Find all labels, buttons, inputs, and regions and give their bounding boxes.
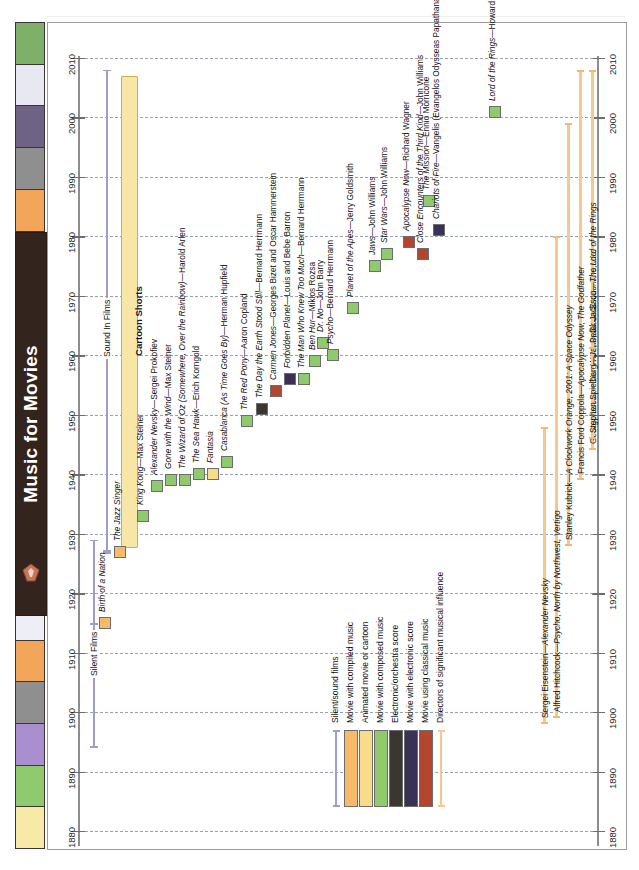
legend-swatch [359, 730, 373, 807]
film-marker[interactable] [151, 480, 163, 492]
year-label-left: 2010 [66, 54, 77, 75]
legend-label: Animated movie or cartoon [360, 621, 370, 723]
film-label: Apocalypse Now—Richard Wagner [402, 102, 411, 232]
infographic-page: Music for Movies 20102010200020001990199… [0, 0, 639, 870]
year-label-right: 1980 [607, 232, 618, 253]
film-marker[interactable] [270, 385, 282, 397]
film-marker[interactable] [298, 373, 310, 385]
film-marker[interactable] [221, 456, 233, 468]
film-label: The Red Pony—Aaron Copland [240, 293, 249, 410]
film-label: The Sea Hawk—Erich Korngold [192, 346, 201, 463]
year-label-left: 1930 [66, 530, 77, 551]
film-marker[interactable] [193, 468, 205, 480]
film-label: Planet of the Apes—Jerry Goldsmith [346, 163, 355, 297]
gridline [85, 653, 593, 654]
film-marker[interactable] [179, 474, 191, 486]
legend-swatch [404, 730, 418, 807]
color-swatch [15, 640, 45, 683]
film-marker[interactable] [241, 415, 253, 427]
color-swatch [15, 723, 45, 766]
film-marker[interactable] [327, 349, 339, 361]
gridline [85, 534, 593, 535]
gridline [85, 831, 593, 832]
film-marker[interactable] [165, 474, 177, 486]
film-marker[interactable] [489, 106, 501, 118]
color-swatch [15, 189, 45, 232]
film-marker[interactable] [284, 373, 296, 385]
year-label-right: 1970 [607, 292, 618, 313]
color-swatch [15, 147, 45, 190]
axis-tick [592, 653, 605, 654]
film-marker[interactable] [256, 403, 268, 415]
year-axis-left [78, 56, 80, 846]
axis-tick [592, 712, 605, 713]
year-label-left: 1890 [66, 767, 77, 788]
film-marker[interactable] [114, 546, 126, 558]
film-label: The Wizard of Oz (Somewhere, Over the Ra… [178, 228, 187, 470]
color-swatch [15, 105, 45, 148]
color-swatch [15, 22, 45, 65]
legend-label: Movie with electronic score [405, 621, 415, 723]
year-label-left: 1880 [66, 827, 77, 848]
director-label: Francis Ford Coppola—Apocalypse Now, The… [576, 267, 586, 475]
axis-tick [592, 117, 605, 118]
film-label: Chariots of Fire—Vangelis (Evangelos Ody… [432, 0, 441, 219]
year-label-left: 1990 [66, 173, 77, 194]
film-marker[interactable] [347, 302, 359, 314]
year-label-right: 2010 [607, 54, 618, 75]
legend-label: Movie with compiled music [345, 622, 355, 723]
year-label-right: 1890 [607, 767, 618, 788]
film-label: Forbidden Planet—Louis and Bebe Barron [283, 212, 292, 368]
year-label-left: 1910 [66, 648, 77, 669]
film-label: Gone with the Wind—Max Steiner [164, 344, 173, 469]
year-label-left: 2000 [66, 113, 77, 134]
gridline [85, 593, 593, 594]
legend-label: Electronic/orchestra score [390, 625, 400, 723]
film-marker[interactable] [309, 355, 321, 367]
film-label: Psycho—Bernard Herrmann [326, 240, 335, 344]
film-label: Close Encounters of the Third Kind—John … [416, 55, 425, 243]
film-label: The Man Who Knew Too Much—Bernard Herrma… [297, 177, 306, 368]
axis-tick [592, 177, 605, 178]
axis-tick [592, 474, 605, 475]
film-label: Casablanca (As Time Goes By)—Herman Hupf… [220, 265, 229, 452]
legend-swatch [344, 730, 358, 807]
gridline [85, 296, 593, 297]
legend-label: Silent/sound films [330, 656, 340, 723]
film-marker[interactable] [369, 260, 381, 272]
year-axis-right [597, 56, 599, 846]
film-label: Ben Hur—Miklos Rozsa [308, 262, 317, 350]
year-label-right: 1960 [607, 351, 618, 372]
film-marker[interactable] [381, 248, 393, 260]
era-label-cartoon-shorts: Cartoon Shorts [133, 286, 144, 356]
chart-plot-area: 2010201020002000199019901980198019701970… [51, 26, 623, 846]
year-label-right: 2000 [607, 113, 618, 134]
director-label: Stanley Kubrick—A Clockwork Orange, 2001… [564, 305, 574, 540]
title-band: Music for Movies [15, 232, 47, 616]
year-label-left: 1900 [66, 708, 77, 729]
film-marker[interactable] [99, 617, 111, 629]
film-marker[interactable] [207, 468, 219, 480]
director-label: Peter Jackson—The Lord of the Rings [588, 203, 598, 344]
gem-icon [21, 563, 41, 583]
film-marker[interactable] [403, 236, 415, 248]
year-label-right: 1920 [607, 589, 618, 610]
axis-tick [592, 831, 605, 832]
film-marker[interactable] [137, 510, 149, 522]
era-label-sound-in-films: Sound In Films [102, 297, 112, 358]
year-label-left: 1980 [66, 232, 77, 253]
color-swatch [15, 681, 45, 724]
year-label-right: 1950 [607, 411, 618, 432]
axis-tick [592, 772, 605, 773]
film-marker[interactable] [433, 224, 445, 236]
year-label-left: 1950 [66, 411, 77, 432]
axis-tick [592, 58, 605, 59]
legend-label: Directors of significant musical influen… [435, 572, 445, 723]
film-label: Birth of a Nation [98, 552, 107, 612]
gridline [85, 355, 593, 356]
film-marker[interactable] [417, 248, 429, 260]
film-label: Carmen Jones—Georges Bizet and Oscar Ham… [269, 173, 278, 380]
film-label: The Day the Earth Stood Still—Bernard He… [255, 214, 264, 398]
year-label-right: 1900 [607, 708, 618, 729]
gridline [85, 772, 593, 773]
